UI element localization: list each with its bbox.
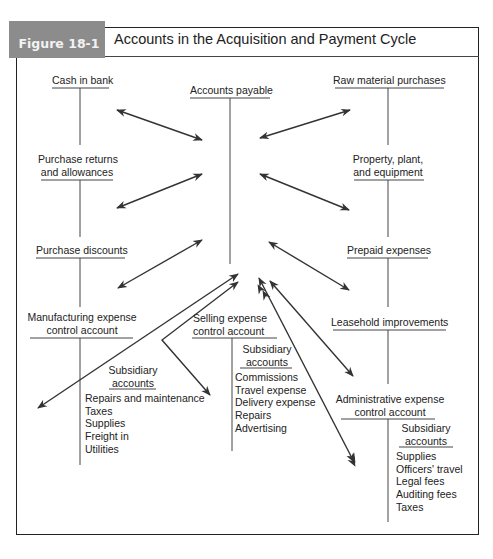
administrative-line2: control account: [335, 406, 445, 419]
list-item: Freight in: [85, 430, 205, 443]
list-item: Travel expense: [235, 384, 316, 397]
account-manufacturing-expense: Manufacturing expense control account: [27, 311, 137, 337]
list-item: Utilities: [85, 443, 205, 456]
administrative-subsidiary-list: Supplies Officers' travel Legal fees Aud…: [396, 450, 463, 514]
administrative-line1: Administrative expense: [335, 393, 445, 406]
subsidiary-heading-line2: accounts: [397, 435, 455, 448]
manufacturing-line2: control account: [27, 324, 137, 337]
list-item: Auditing fees: [396, 488, 463, 501]
list-item: Repairs: [235, 409, 316, 422]
selling-subsidiary-heading: Subsidiary accounts: [239, 343, 295, 368]
list-item: Commissions: [235, 371, 316, 384]
list-item: Officers' travel: [396, 463, 463, 476]
list-item: Supplies: [85, 417, 205, 430]
selling-line2: control account: [193, 325, 273, 338]
property-line1: Property, plant,: [352, 153, 424, 166]
subsidiary-heading-line1: Subsidiary: [239, 343, 295, 356]
purchase-returns-line1: Purchase returns: [38, 153, 116, 166]
account-accounts-payable: Accounts payable: [190, 84, 273, 97]
account-purchase-returns: Purchase returns and allowances: [38, 153, 116, 179]
selling-line1: Selling expense: [193, 312, 273, 325]
list-item: Legal fees: [396, 475, 463, 488]
account-property-plant-equipment: Property, plant, and equipment: [352, 153, 424, 179]
account-raw-material-purchases: Raw material purchases: [333, 74, 446, 87]
subsidiary-heading-line1: Subsidiary: [397, 422, 455, 435]
subsidiary-heading-line2: accounts: [239, 356, 295, 369]
list-item: Advertising: [235, 422, 316, 435]
manufacturing-line1: Manufacturing expense: [27, 311, 137, 324]
list-item: Taxes: [85, 405, 205, 418]
list-item: Supplies: [396, 450, 463, 463]
subsidiary-heading-line1: Subsidiary: [102, 364, 164, 377]
manufacturing-subsidiary-list: Repairs and maintenance Taxes Supplies F…: [85, 392, 205, 456]
account-leasehold-improvements: Leasehold improvements: [331, 316, 448, 329]
administrative-subsidiary-heading: Subsidiary accounts: [397, 422, 455, 447]
subsidiary-heading-line2: accounts: [102, 377, 164, 390]
list-item: Delivery expense: [235, 396, 316, 409]
property-line2: and equipment: [352, 166, 424, 179]
selling-subsidiary-list: Commissions Travel expense Delivery expe…: [235, 371, 316, 435]
account-selling-expense: Selling expense control account: [193, 312, 273, 338]
purchase-returns-line2: and allowances: [38, 166, 116, 179]
account-prepaid-expenses: Prepaid expenses: [347, 244, 431, 257]
account-purchase-discounts: Purchase discounts: [36, 244, 128, 257]
account-cash-in-bank: Cash in bank: [52, 74, 113, 87]
manufacturing-subsidiary-heading: Subsidiary accounts: [102, 364, 164, 389]
account-administrative-expense: Administrative expense control account: [335, 393, 445, 419]
list-item: Taxes: [396, 501, 463, 514]
list-item: Repairs and maintenance: [85, 392, 205, 405]
